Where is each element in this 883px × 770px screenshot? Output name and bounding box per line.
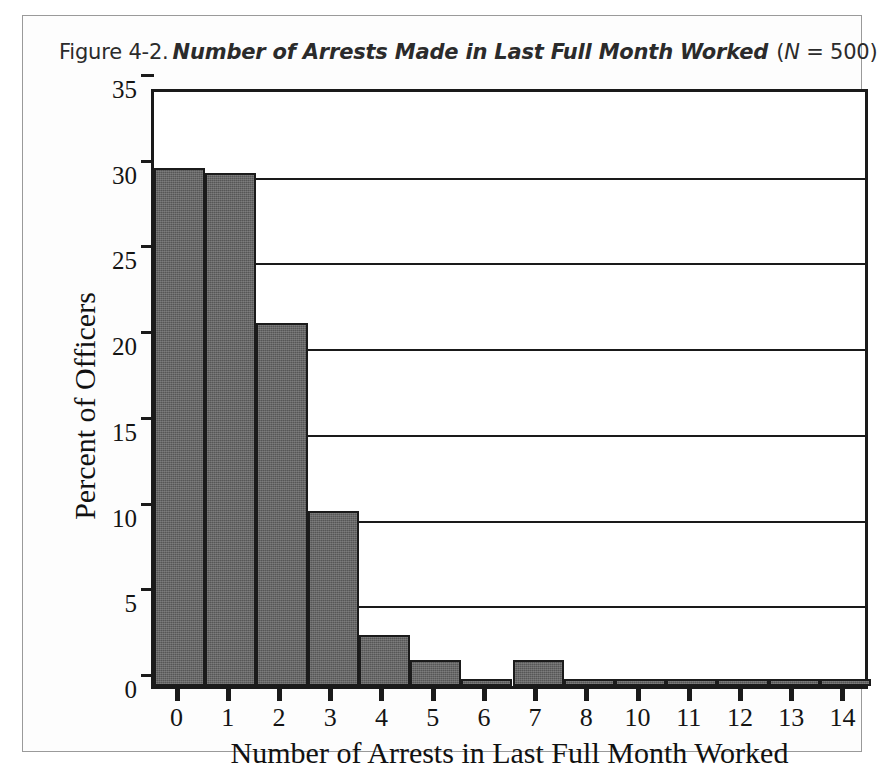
- bar: [820, 679, 871, 686]
- x-axis-tick-label: 0: [152, 705, 202, 731]
- bar: [461, 679, 512, 686]
- y-axis-tick-label: 20: [91, 334, 137, 359]
- x-axis-tick-label: 14: [817, 705, 867, 731]
- bar: [256, 323, 307, 686]
- x-axis-tick-marks: [151, 689, 868, 703]
- x-axis-tick-label: 13: [766, 705, 816, 731]
- y-axis-tick-label: 35: [91, 77, 137, 102]
- bar: [205, 173, 256, 686]
- bar-series: [154, 92, 865, 686]
- y-axis-tick-mark: [141, 674, 154, 677]
- y-axis-tick-label: 30: [91, 162, 137, 187]
- x-axis-tick-mark: [636, 689, 641, 701]
- x-axis-tick-labels: 0123456781011121314: [151, 705, 868, 737]
- x-axis-tick-label: 8: [561, 705, 611, 731]
- x-axis-tick-label: 7: [510, 705, 560, 731]
- n-note-symbol: N: [784, 40, 800, 64]
- x-axis-tick-mark: [328, 689, 333, 701]
- x-axis-tick-label: 12: [715, 705, 765, 731]
- x-axis-tick-label: 6: [459, 705, 509, 731]
- figure-caption-title: Number of Arrests Made in Last Full Mont…: [169, 40, 769, 64]
- bar: [359, 635, 410, 686]
- bar: [769, 679, 820, 686]
- bar: [615, 679, 666, 686]
- x-axis-tick-mark: [379, 689, 384, 701]
- figure-caption-n-note: (N = 500): [768, 40, 877, 64]
- x-axis-tick-label: 10: [613, 705, 663, 731]
- figure-caption-label: Figure 4-2.: [59, 40, 169, 64]
- y-axis-tick-label: 25: [91, 248, 137, 273]
- x-axis-tick-label: 4: [356, 705, 406, 731]
- y-axis-tick-mark: [141, 417, 154, 420]
- y-axis-tick-mark: [141, 588, 154, 591]
- y-axis-tick-mark: [141, 160, 154, 163]
- bar: [564, 679, 615, 686]
- x-axis-title: Number of Arrests in Last Full Month Wor…: [151, 736, 868, 770]
- bar: [154, 168, 205, 686]
- x-axis-tick-mark: [533, 689, 538, 701]
- y-axis-tick-labels: 05101520253035: [85, 89, 137, 689]
- bar: [410, 660, 461, 686]
- bar: [666, 679, 717, 686]
- x-axis-tick-label: 5: [408, 705, 458, 731]
- y-axis-tick-mark: [141, 245, 154, 248]
- x-axis-tick-label: 1: [203, 705, 253, 731]
- y-axis-tick-mark: [141, 74, 154, 77]
- n-note-prefix: (: [776, 40, 784, 64]
- x-axis-tick-mark: [175, 689, 180, 701]
- y-axis-tick-label: 15: [91, 419, 137, 444]
- x-axis-tick-mark: [482, 689, 487, 701]
- x-axis-tick-label: 2: [254, 705, 304, 731]
- x-axis-tick-mark: [687, 689, 692, 701]
- n-note-suffix: = 500): [800, 40, 878, 64]
- figure-caption: Figure 4-2.Number of Arrests Made in Las…: [59, 40, 879, 74]
- x-axis-tick-mark: [431, 689, 436, 701]
- y-axis-tick-label: 10: [91, 505, 137, 530]
- x-axis-tick-mark: [840, 689, 845, 701]
- y-axis-tick-mark: [141, 503, 154, 506]
- x-axis-tick-mark: [789, 689, 794, 701]
- bar: [308, 511, 359, 686]
- x-axis-tick-mark: [277, 689, 282, 701]
- x-axis-tick-mark: [584, 689, 589, 701]
- x-axis-tick-label: 11: [664, 705, 714, 731]
- y-axis-tick-label: 0: [91, 677, 137, 702]
- plot-area: [151, 89, 868, 689]
- x-axis-tick-mark: [738, 689, 743, 701]
- figure-frame: Figure 4-2.Number of Arrests Made in Las…: [22, 15, 862, 752]
- y-axis-tick-label: 5: [91, 591, 137, 616]
- y-axis-tick-mark: [141, 331, 154, 334]
- x-axis-tick-label: 3: [305, 705, 355, 731]
- bar: [717, 679, 768, 686]
- x-axis-tick-mark: [226, 689, 231, 701]
- bar: [513, 660, 564, 686]
